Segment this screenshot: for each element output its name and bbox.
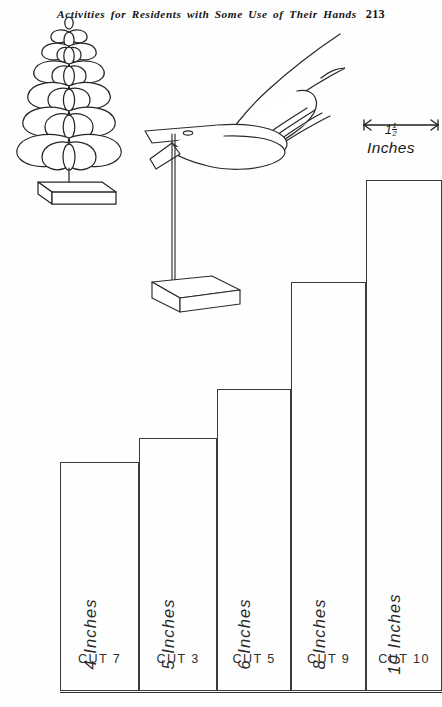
chart-baseline — [60, 692, 442, 693]
page-number: 213 — [366, 7, 385, 21]
bar-cut-7: 4 Inches CUT 7 — [60, 462, 139, 691]
paper-strip-length-chart: 4 Inches CUT 7 5 Inches CUT 3 6 Inches C… — [60, 180, 442, 701]
bar-cut-label: CUT 10 — [367, 652, 441, 666]
running-head: Activities for Residents with Some Use o… — [0, 4, 442, 22]
bar-cut-label: CUT 5 — [218, 652, 290, 666]
fraction-denominator: 2 — [392, 130, 397, 137]
bar-cut-5: 6 Inches CUT 5 — [217, 389, 291, 691]
book-page: Activities for Residents with Some Use o… — [0, 0, 442, 707]
bar-cut-label: CUT 7 — [61, 652, 138, 666]
paper-loop-christmas-tree-illustration — [2, 16, 136, 206]
running-head-title: Activities for Residents with Some Use o… — [57, 8, 357, 20]
bar-cut-3: 5 Inches CUT 3 — [139, 438, 217, 691]
bar-cut-10: 10 Inches CUT 10 — [366, 180, 442, 691]
bar-cut-label: CUT 3 — [140, 652, 216, 666]
fraction-whole: 1 — [385, 122, 392, 137]
strip-width-units: Inches — [340, 139, 442, 157]
strip-width-caption: 112 Inches — [340, 114, 442, 157]
hand-threading-paper-strip-illustration — [140, 28, 345, 188]
bar-cut-label: CUT 9 — [292, 652, 365, 666]
strip-width-value: 112 — [340, 122, 442, 138]
fraction-half: 12 — [392, 122, 397, 137]
bar-cut-9: 8 Inches CUT 9 — [291, 282, 366, 691]
